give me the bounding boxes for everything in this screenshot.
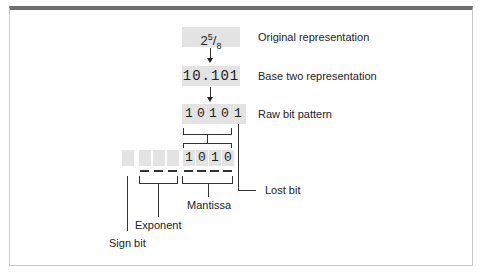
bracket-mant-top bbox=[183, 143, 232, 144]
original-value-box: 25/8 bbox=[182, 27, 240, 47]
original-label: Original representation bbox=[258, 31, 369, 43]
dash bbox=[184, 170, 193, 172]
figure-frame bbox=[9, 6, 473, 266]
exponent-cell bbox=[167, 150, 179, 166]
raw-bit: 1 bbox=[207, 106, 219, 122]
sign-bit-label: Sign bit bbox=[109, 237, 146, 249]
dash bbox=[168, 170, 177, 172]
mantissa-label: Mantissa bbox=[187, 199, 231, 211]
sign-bit-cell bbox=[122, 150, 134, 166]
raw-bit: 0 bbox=[219, 106, 231, 122]
arrow-head-1 bbox=[207, 58, 213, 63]
dash bbox=[197, 170, 206, 172]
lost-bit-line bbox=[238, 190, 256, 191]
mantissa-cell: 1 bbox=[183, 150, 195, 166]
dash bbox=[210, 170, 219, 172]
bracket-exponent bbox=[177, 176, 178, 183]
raw-bit: 0 bbox=[195, 106, 207, 122]
exponent-stem bbox=[158, 183, 159, 217]
sign-bit-line bbox=[127, 176, 128, 231]
raw-label: Raw bit pattern bbox=[258, 108, 332, 120]
dash bbox=[154, 170, 163, 172]
dash bbox=[140, 170, 149, 172]
base-two-label: Base two representation bbox=[258, 70, 377, 82]
arrow-head-2 bbox=[207, 97, 213, 102]
bracket-mant-top bbox=[231, 143, 232, 148]
bracket-mantissa bbox=[232, 176, 233, 183]
bracket-exponent bbox=[139, 176, 140, 183]
raw-bit: 1 bbox=[232, 106, 244, 122]
lost-bit-label: Lost bit bbox=[265, 184, 300, 196]
mantissa-cell: 0 bbox=[196, 150, 208, 166]
base-two-box: 10.101 bbox=[182, 66, 240, 86]
bracket-mantissa bbox=[182, 176, 183, 183]
lost-bit-line bbox=[238, 124, 239, 190]
bracket-mant-top bbox=[183, 143, 184, 148]
exponent-cell bbox=[139, 150, 151, 166]
exponent-cell bbox=[153, 150, 165, 166]
dash bbox=[223, 170, 232, 172]
exponent-label: Exponent bbox=[135, 219, 181, 231]
mantissa-cell: 0 bbox=[222, 150, 234, 166]
mantissa-cell: 1 bbox=[209, 150, 221, 166]
mantissa-stem bbox=[208, 183, 209, 197]
bracket-stem bbox=[207, 134, 208, 143]
raw-bit: 1 bbox=[183, 106, 195, 122]
